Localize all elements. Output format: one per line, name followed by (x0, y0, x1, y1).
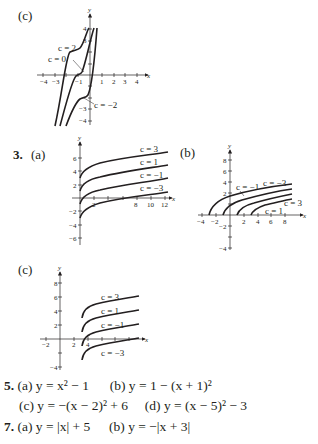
svg-text:4: 4 (54, 308, 58, 316)
svg-text:−4: −4 (50, 364, 58, 372)
svg-text:8: 8 (54, 280, 58, 288)
problem-7b-equation: y = −|x + 3| (128, 419, 190, 434)
problem-5-line-1: 5. (a) y = x² − 1 (b) y = 1 − (x + 1)² (4, 378, 212, 394)
problem-5-number: 5. (4, 378, 14, 393)
problem-7-line: 7. (a) y = |x| + 5 (b) y = −|x + 3| (4, 419, 190, 435)
problem-5a-label: (a) (18, 378, 33, 393)
problem-7a-label: (a) (18, 419, 33, 434)
problem-7a-equation: y = |x| + 5 (36, 419, 90, 434)
svg-text:−2: −2 (42, 341, 50, 349)
svg-text:c = 3: c = 3 (101, 292, 120, 302)
problem-5a-equation: y = x² − 1 (36, 378, 89, 393)
problem-7b-label: (b) (109, 419, 125, 434)
problem-5d-label: (d) (145, 398, 161, 413)
svg-text:6: 6 (54, 294, 58, 302)
problem-5-line-2: (c) y = −(x − 2)² + 6 (d) y = (x − 5)² −… (19, 398, 247, 414)
problem-5b-equation: y = 1 − (x + 1)² (129, 378, 212, 393)
problem-5c-equation: y = −(x − 2)² + 6 (37, 398, 128, 413)
svg-text:2: 2 (54, 322, 58, 330)
svg-text:c = 1: c = 1 (101, 306, 119, 316)
problem-5b-label: (b) (110, 378, 126, 393)
problem-5d-equation: y = (x − 5)² − 3 (164, 398, 247, 413)
problem-5c-label: (c) (19, 398, 34, 413)
svg-text:x: x (144, 336, 149, 344)
svg-text:c = −1: c = −1 (101, 320, 124, 330)
svg-text:y: y (57, 264, 62, 272)
problem-7-number: 7. (4, 419, 14, 434)
svg-text:2: 2 (72, 341, 76, 349)
svg-text:c = −3: c = −3 (101, 348, 125, 358)
